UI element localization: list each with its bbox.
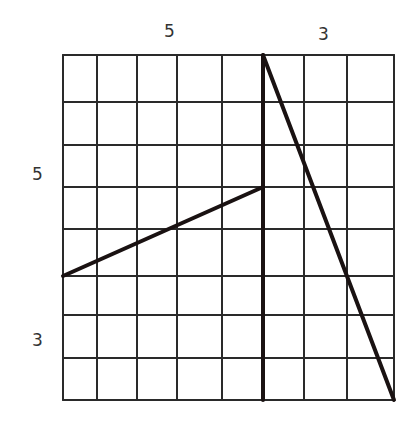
cut-lines xyxy=(63,55,394,400)
grid-lines xyxy=(63,55,394,400)
right-diagonal xyxy=(263,55,394,400)
left-slant xyxy=(63,187,263,276)
grid-diagram xyxy=(0,0,417,429)
